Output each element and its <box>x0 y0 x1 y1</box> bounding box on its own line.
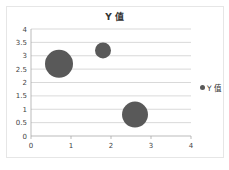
legend: Y 值 <box>200 82 221 93</box>
bubble <box>95 42 111 58</box>
x-tick-label: 4 <box>189 142 194 150</box>
y-tick-label: 2.5 <box>16 66 27 74</box>
bubble <box>122 102 148 128</box>
x-tick-label: 3 <box>149 142 153 150</box>
y-tick-label: 2 <box>23 79 27 87</box>
legend-label: Y 值 <box>207 82 221 93</box>
x-tick-label: 1 <box>69 142 73 150</box>
x-tick-label: 2 <box>109 142 113 150</box>
y-tick-label: 3.5 <box>16 39 27 47</box>
y-tick-label: 0 <box>23 133 27 141</box>
y-tick-label: 1 <box>23 106 27 114</box>
y-tick-label: 3 <box>23 52 27 60</box>
y-tick-label: 4 <box>23 26 28 34</box>
plot-area: 00.511.522.533.54 01234 <box>0 0 229 170</box>
bubble <box>45 50 73 78</box>
x-tick-label: 0 <box>29 142 33 150</box>
y-tick-label: 0.5 <box>16 119 27 127</box>
legend-marker-icon <box>200 85 205 90</box>
y-tick-label: 1.5 <box>16 92 27 100</box>
